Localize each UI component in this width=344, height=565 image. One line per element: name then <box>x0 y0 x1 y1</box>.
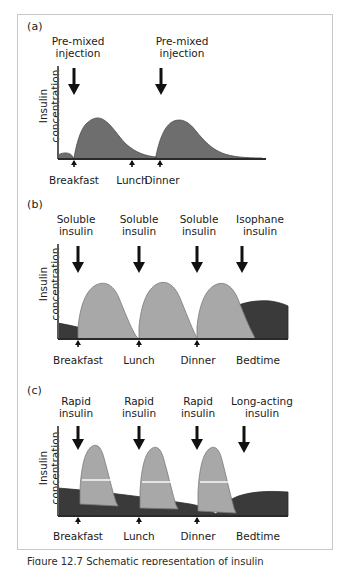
panel-c-injection-arrow-1 <box>72 426 84 450</box>
panel-b-injection-label-4: Isophane insulin <box>224 214 296 237</box>
panel-b-injection-label-1: Soluble insulin <box>42 214 110 237</box>
panel-b-xtick-bedtime: Bedtime <box>226 354 290 366</box>
panel-c-injection-arrow-2 <box>133 426 145 450</box>
panel-c-rapid-peak-2 <box>140 447 178 509</box>
panel-b: (b) Insulin concentration Soluble insuli… <box>0 192 344 378</box>
panel-c-injection-label-1: Rapid insulin <box>46 396 106 419</box>
panel-a-injection-label-2: Pre-mixed injection <box>139 36 225 59</box>
panel-b-injection-arrow-4 <box>236 246 248 273</box>
panel-a-premixed-insulin-area <box>58 118 262 159</box>
panel-b-plot <box>56 244 296 356</box>
panel-b-xtick-breakfast: Breakfast <box>40 354 116 366</box>
panel-a-xtick-dinner: Dinner <box>134 174 190 186</box>
panel-a-letter: (a) <box>27 20 43 33</box>
panel-c: (c) Insulin concentration Rapid insulin … <box>0 378 344 550</box>
panel-b-injection-label-3: Soluble insulin <box>165 214 233 237</box>
panel-b-injection-arrow-2 <box>133 246 145 273</box>
panel-a-injection-arrow-1 <box>68 68 80 95</box>
insulin-regimen-figure: (a) Insulin concentration Pre-mixed inje… <box>0 0 344 565</box>
panel-b-soluble-peak-2 <box>139 282 197 339</box>
panel-a-injection-arrow-2 <box>155 68 167 95</box>
panel-c-rapid-peak-3 <box>198 447 236 513</box>
panel-c-rapid-peak-1 <box>80 445 118 506</box>
panel-a-injection-label-1: Pre-mixed injection <box>35 36 121 59</box>
panel-c-injection-arrow-3 <box>191 426 203 450</box>
panel-b-letter: (b) <box>27 198 43 211</box>
panel-b-injection-label-2: Soluble insulin <box>105 214 173 237</box>
panel-b-injection-arrow-1 <box>72 246 84 273</box>
panel-a-xtick-breakfast: Breakfast <box>36 174 112 186</box>
panel-b-soluble-peak-1 <box>78 283 139 339</box>
panel-c-xtick-dinner: Dinner <box>169 530 227 542</box>
panel-c-injection-label-3: Rapid insulin <box>168 396 228 419</box>
panel-c-xtick-breakfast: Breakfast <box>40 530 116 542</box>
panel-b-xtick-dinner: Dinner <box>169 354 227 366</box>
panel-c-plot <box>56 426 296 530</box>
panel-a: (a) Insulin concentration Pre-mixed inje… <box>0 14 344 199</box>
figure-caption: Figure 12.7 Schematic representation of … <box>27 556 327 565</box>
panel-c-injection-label-4: Long-acting insulin <box>222 396 302 419</box>
panel-c-letter: (c) <box>27 384 42 397</box>
panel-a-plot <box>56 66 286 176</box>
panel-c-xtick-lunch: Lunch <box>111 530 167 542</box>
panel-c-injection-label-2: Rapid insulin <box>109 396 169 419</box>
panel-c-xtick-bedtime: Bedtime <box>226 530 290 542</box>
panel-c-injection-arrow-4 <box>238 426 250 453</box>
panel-b-injection-arrow-3 <box>191 246 203 273</box>
panel-b-xtick-lunch: Lunch <box>111 354 167 366</box>
